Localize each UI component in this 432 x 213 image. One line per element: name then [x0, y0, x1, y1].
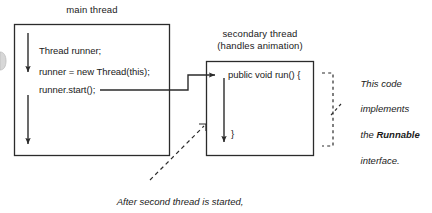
runnable-note-line-1: This code — [361, 78, 402, 89]
runnable-note-line-2: implements — [361, 103, 410, 114]
runnable-note-keyword: Runnable — [376, 129, 419, 140]
start-call-connector — [100, 75, 215, 90]
main-thread-title: main thread — [14, 4, 170, 15]
main-thread-code-line-2: runner = new Thread(this); — [39, 66, 150, 77]
main-thread-code-line-3: runner.start(); — [39, 84, 95, 95]
left-edge-partial-arrow-icon — [0, 52, 6, 70]
secondary-thread-title-line2: (handles animation) — [200, 40, 320, 51]
runnable-note-line-4: interface. — [361, 155, 400, 166]
runnable-note-bracket — [322, 73, 333, 146]
bottom-caption: After second thread is started, it runs … — [60, 183, 290, 213]
secondary-thread-title-line1: secondary thread — [200, 28, 320, 39]
runnable-note-line-3-prefix: the — [361, 129, 377, 140]
secondary-thread-code-open: public void run() { — [228, 69, 300, 80]
thread-diagram-canvas: main thread Thread runner; runner = new … — [0, 0, 432, 213]
caption-leader-line — [150, 126, 204, 180]
runnable-note: This code implements the Runnable interf… — [350, 65, 432, 180]
main-thread-code-line-1: Thread runner; — [39, 45, 101, 56]
bottom-caption-line-1: After second thread is started, — [117, 196, 244, 207]
secondary-thread-code-close: } — [231, 128, 234, 139]
